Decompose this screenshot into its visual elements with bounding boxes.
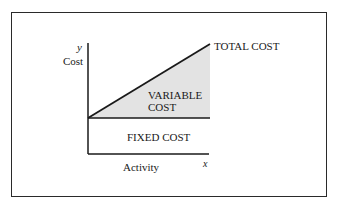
y-axis-label: Cost xyxy=(63,55,83,67)
x-axis-label: Activity xyxy=(123,161,159,173)
fixed-cost-label: FIXED COST xyxy=(127,131,190,143)
x-axis-symbol: x xyxy=(203,158,207,170)
variable-cost-label-line1: VARIABLE xyxy=(148,89,202,101)
total-cost-label: TOTAL COST xyxy=(214,40,279,52)
y-axis-symbol: y xyxy=(77,41,82,53)
variable-cost-label-line2: COST xyxy=(148,101,176,113)
